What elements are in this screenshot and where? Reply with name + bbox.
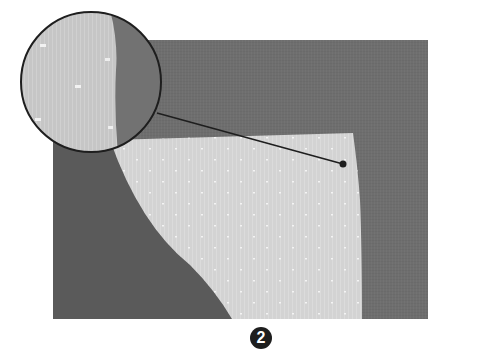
fabric-illustration	[0, 0, 478, 364]
leader-dot	[340, 161, 347, 168]
step-number-badge: 2	[250, 327, 272, 349]
